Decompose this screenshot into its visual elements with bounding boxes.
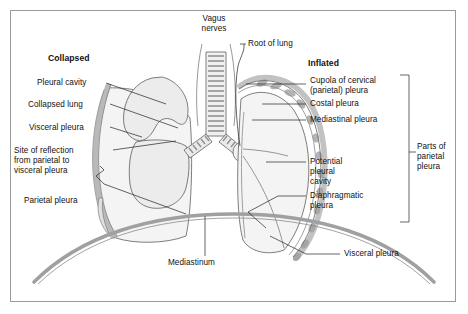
label-visceral-pleura-right: Visceral pleura	[344, 249, 399, 259]
vagus-nerve-right	[230, 44, 235, 126]
heading-collapsed: Collapsed	[48, 53, 90, 63]
vagus-nerve-left	[197, 44, 202, 126]
diaphragm-arc	[34, 214, 434, 282]
label-site-of-reflection: Site of reflection from parietal to visc…	[14, 146, 74, 177]
label-diaphragmatic-pleura: Diaphragmatic pleura	[310, 191, 363, 211]
label-cupola-of-cervical-pleura: Cupola of cervical (parietal) pleura	[310, 76, 376, 96]
label-pleural-cavity: Pleural cavity	[37, 78, 86, 88]
heading-inflated: Inflated	[308, 58, 339, 68]
label-mediastinal-pleura: Mediastinal pleura	[310, 115, 377, 125]
label-potential-pleural-cavity: Potential pleural cavity	[310, 157, 342, 188]
inflated-lung	[238, 92, 309, 252]
label-collapsed-lung: Collapsed lung	[28, 100, 83, 110]
parts-of-parietal-pleura-bracket	[400, 75, 409, 222]
label-parietal-pleura: Parietal pleura	[24, 196, 78, 206]
label-mediastinum: Mediastinum	[168, 258, 215, 268]
label-root-of-lung: Root of lung	[248, 39, 293, 49]
label-vagus-nerves: Vagus nerves	[189, 14, 239, 34]
label-costal-pleura: Costal pleura	[310, 99, 359, 109]
collapsed-lung-lower-lobe	[129, 140, 189, 208]
label-parts-of-parietal-pleura: Parts of parietal pleura	[417, 142, 446, 173]
label-visceral-pleura-left: Visceral pleura	[29, 123, 84, 133]
trachea-outline	[206, 52, 226, 136]
